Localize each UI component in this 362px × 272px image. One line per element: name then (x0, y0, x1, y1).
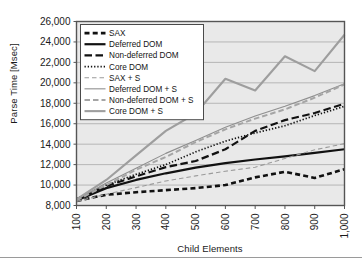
y-tick-label: 18,000 (40, 98, 71, 109)
y-tick-label: 26,000 (40, 16, 71, 27)
x-tick-label: 800 (280, 213, 291, 230)
x-tick-label: 700 (250, 213, 261, 230)
y-tick-label: 20,000 (40, 77, 71, 88)
x-tick-label: 600 (220, 213, 231, 230)
legend-box (81, 25, 204, 120)
x-axis-title: Child Elements (76, 243, 344, 254)
x-tick-label: 100 (71, 213, 82, 230)
y-tick-label: 12,000 (40, 159, 71, 170)
legend-label-1: Deferred DOM (109, 40, 162, 49)
x-tick-label: 200 (101, 213, 112, 230)
y-tick-label: 14,000 (40, 139, 71, 150)
line-chart: 8,00010,00012,00014,00016,00018,00020,00… (0, 0, 362, 272)
y-tick-label: 10,000 (40, 179, 71, 190)
legend-label-4: SAX + S (109, 74, 141, 83)
legend-label-3: Core DOM (109, 63, 148, 72)
legend-label-0: SAX (109, 29, 126, 38)
y-tick-label: 22,000 (40, 57, 71, 68)
y-axis-title: Parse Time [Msec] (8, 9, 19, 159)
x-tick-label: 300 (131, 213, 142, 230)
x-tick-label: 500 (190, 213, 201, 230)
y-tick-label: 16,000 (40, 118, 71, 129)
figure-divider (0, 257, 362, 258)
legend-label-2: Non-deferred DOM (109, 51, 179, 60)
y-tick-label: 8,000 (45, 200, 70, 211)
legend-label-5: Deferred DOM + S (109, 85, 178, 94)
legend-label-6: Non-deferred DOM + S (109, 96, 194, 105)
x-tick-label: 400 (160, 213, 171, 230)
x-tick-label: 900 (309, 213, 320, 230)
y-tick-label: 24,000 (40, 36, 71, 47)
legend-label-7: Core DOM + S (109, 107, 163, 116)
x-tick-label: 1,000 (339, 213, 350, 238)
chart-figure: 8,00010,00012,00014,00016,00018,00020,00… (0, 0, 362, 272)
